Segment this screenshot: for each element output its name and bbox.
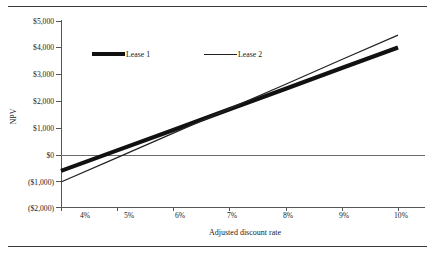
plot-area: $5,000 $4,000 $3,000 $2,000 $1,000 $0 ($… (0, 0, 435, 253)
legend-label: Lease 1 (126, 50, 150, 59)
legend-label: Lease 2 (238, 50, 262, 59)
legend-swatch-thick-icon (92, 52, 125, 56)
legend-item-lease-1: Lease 1 (92, 47, 150, 61)
legend-swatch-thin-icon (204, 54, 237, 55)
bottom-divider (8, 246, 427, 247)
figure-page: $5,000 $4,000 $3,000 $2,000 $1,000 $0 ($… (0, 0, 435, 253)
series-canvas (0, 0, 435, 253)
legend-item-lease-2: Lease 2 (204, 47, 262, 61)
